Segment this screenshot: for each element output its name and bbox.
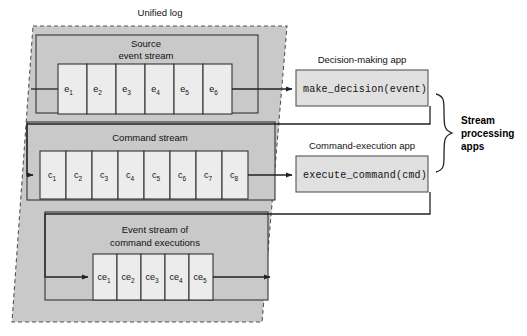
unified-log-diagram: Unified log Source event stream Command …: [0, 0, 527, 336]
source-event-stream-cells: [58, 64, 232, 114]
decision-making-app-code: make_decision(event): [303, 84, 427, 95]
command-stream-cells: [40, 151, 248, 199]
stream-processing-apps-label-line1: Stream: [461, 115, 495, 126]
diagram-canvas: Unified log Source event stream Command …: [0, 0, 527, 336]
unified-log-label: Unified log: [138, 7, 183, 18]
stream-processing-apps-label-line3: apps: [461, 141, 485, 152]
decision-making-app-title: Decision-making app: [318, 54, 407, 65]
command-stream-label: Command stream: [112, 132, 188, 143]
command-execution-app-code: execute_command(cmd): [303, 170, 427, 181]
source-event-stream-label-line2: event stream: [119, 50, 174, 61]
command-execution-app-title: Command-execution app: [309, 140, 415, 151]
ce-stream-label-line1: Event stream of: [122, 224, 189, 235]
ce-stream-label-line2: command executions: [110, 237, 200, 248]
stream-processing-apps-brace: [436, 94, 452, 172]
stream-processing-apps-label-line2: processing: [461, 128, 514, 139]
source-event-stream-label-line1: Source: [131, 38, 161, 49]
